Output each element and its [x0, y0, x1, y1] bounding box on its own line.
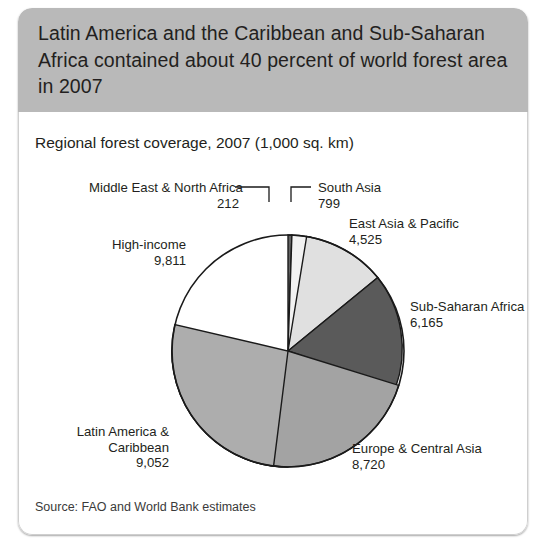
leader-line-south-asia — [291, 187, 311, 202]
figure-card: Latin America and the Caribbean and Sub-… — [18, 8, 528, 535]
label-europe-central-asia: Europe & Central Asia 8,720 — [352, 441, 482, 472]
label-mena-value: 212 — [89, 196, 239, 212]
slice-latin-america-caribbean — [158, 325, 289, 467]
label-latin-america-caribbean-value: 9,052 — [37, 455, 169, 471]
label-high-income-value: 9,811 — [59, 253, 186, 269]
label-sub-saharan-africa-name: Sub-Saharan Africa — [410, 299, 524, 314]
label-mena: Middle East & North Africa 212 — [89, 180, 239, 211]
label-south-asia-value: 799 — [318, 196, 381, 212]
pie-chart: Middle East & North Africa 212 South Asi… — [19, 112, 528, 535]
label-high-income: High-income 9,811 — [59, 237, 186, 268]
label-latin-america-caribbean-name: Latin America & — [77, 424, 169, 439]
label-east-asia-pacific: East Asia & Pacific 4,525 — [349, 216, 459, 247]
label-sub-saharan-africa: Sub-Saharan Africa 6,165 — [410, 299, 524, 330]
label-high-income-name: High-income — [112, 237, 186, 252]
label-east-asia-pacific-name: East Asia & Pacific — [349, 216, 459, 231]
label-sub-saharan-africa-value: 6,165 — [410, 315, 524, 331]
label-mena-name: Middle East & North Africa — [89, 180, 243, 195]
figure-header-band: Latin America and the Caribbean and Sub-… — [18, 8, 528, 112]
label-latin-america-caribbean-name2: Caribbean — [37, 440, 169, 456]
label-europe-central-asia-name: Europe & Central Asia — [352, 441, 482, 456]
label-latin-america-caribbean: Latin America & Caribbean 9,052 — [37, 424, 169, 471]
label-south-asia: South Asia 799 — [318, 180, 381, 211]
label-south-asia-name: South Asia — [318, 180, 381, 195]
label-europe-central-asia-value: 8,720 — [352, 457, 482, 473]
chart-source: Source: FAO and World Bank estimates — [35, 500, 256, 514]
label-east-asia-pacific-value: 4,525 — [349, 232, 459, 248]
figure-body: Regional forest coverage, 2007 (1,000 sq… — [18, 112, 528, 535]
figure-title: Latin America and the Caribbean and Sub-… — [38, 20, 514, 100]
leader-lines — [235, 187, 311, 202]
